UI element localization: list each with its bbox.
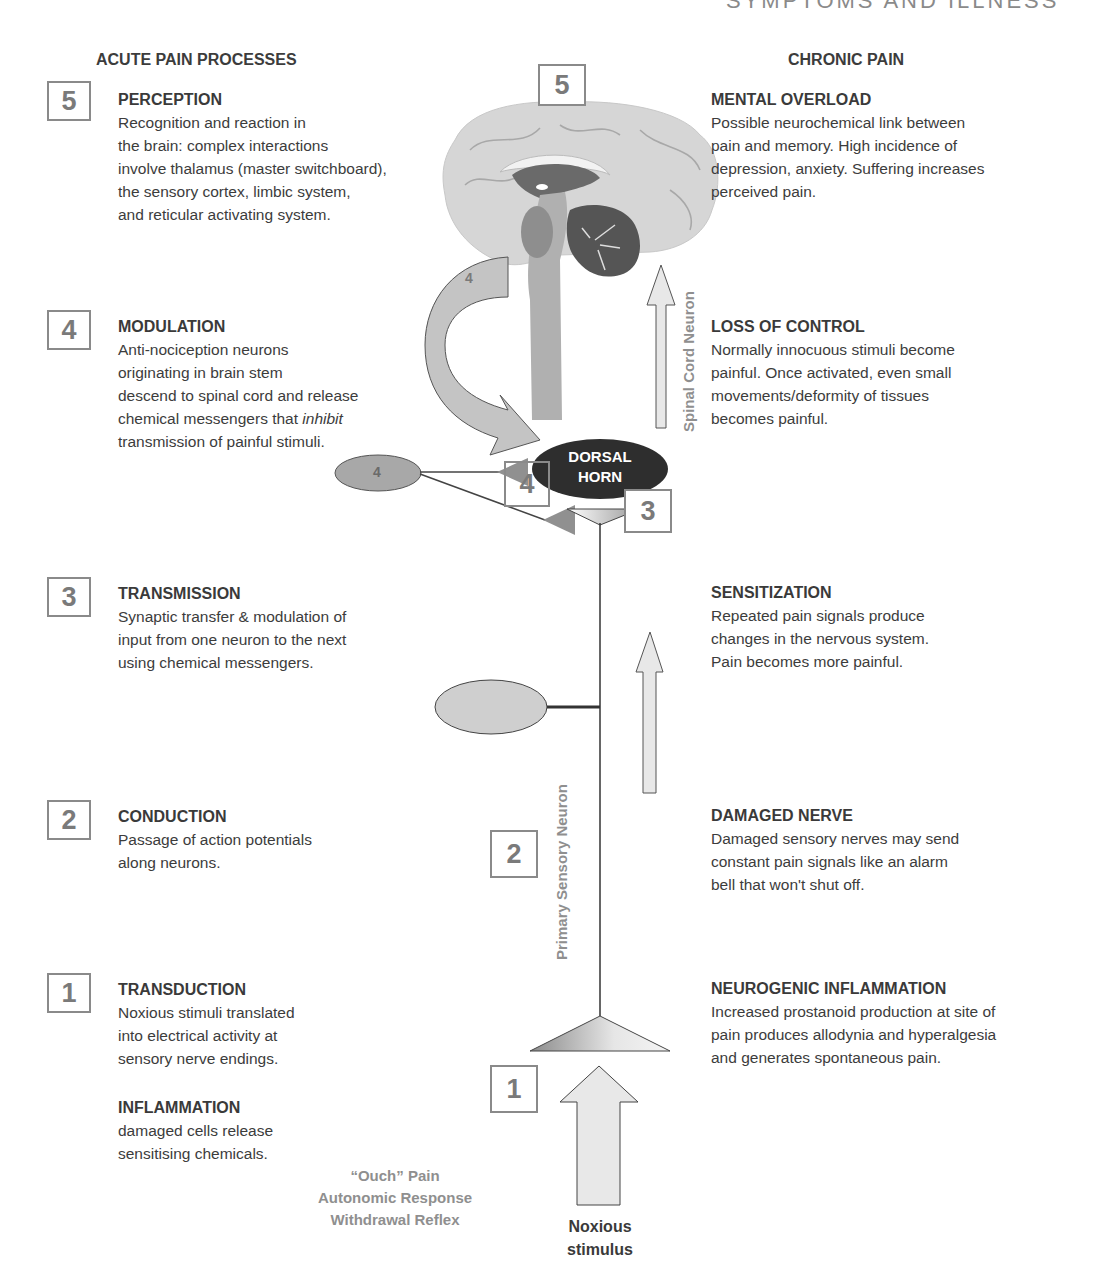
acute-responses: “Ouch” Pain Autonomic Response Withdrawa… — [290, 1165, 500, 1231]
modulation-text: Anti-nociception neurons originating in … — [118, 338, 358, 453]
modulation-text-emphasis: inhibit — [302, 410, 343, 427]
sensitization-up-arrow — [636, 632, 663, 793]
step-box-1: 1 — [47, 973, 91, 1013]
perception-heading: PERCEPTION — [118, 88, 387, 111]
sensitization-text: Repeated pain signals produce changes in… — [711, 604, 929, 673]
modulation-heading: MODULATION — [118, 315, 358, 338]
chronic-mental-overload: MENTAL OVERLOAD Possible neurochemical l… — [711, 88, 984, 203]
interneuron-label: 4 — [373, 464, 381, 480]
chronic-loss-of-control: LOSS OF CONTROL Normally innocuous stimu… — [711, 315, 955, 430]
transduction-step-box: 1 — [490, 1065, 538, 1113]
noxious-stimulus-arrow — [560, 1066, 638, 1205]
modulation-arrow-label: 4 — [465, 270, 473, 286]
acute-transmission: TRANSMISSION Synaptic transfer & modulat… — [118, 582, 346, 674]
nerve-ending — [530, 1016, 670, 1051]
spinal-cord-up-arrow — [647, 265, 675, 428]
response-withdrawal: Withdrawal Reflex — [290, 1209, 500, 1231]
noxious-stimulus-label: Noxious stimulus — [540, 1215, 660, 1261]
sensitization-heading: SENSITIZATION — [711, 581, 929, 604]
mental-overload-heading: MENTAL OVERLOAD — [711, 88, 984, 111]
modulation-text-b: transmission of painful stimuli. — [118, 433, 325, 450]
neurogenic-inflammation-heading: NEUROGENIC INFLAMMATION — [711, 977, 996, 1000]
step-box-3: 3 — [47, 577, 91, 617]
damaged-nerve-text: Damaged sensory nerves may send constant… — [711, 827, 959, 896]
response-autonomic: Autonomic Response — [290, 1187, 500, 1209]
synapse-step-box-4: 4 — [504, 461, 550, 507]
step-box-2: 2 — [47, 800, 91, 840]
step-box-4: 4 — [47, 310, 91, 350]
dorsal-horn-label: DORSAL HORN — [552, 447, 648, 487]
mental-overload-text: Possible neurochemical link between pain… — [711, 111, 984, 203]
inflammation-heading: INFLAMMATION — [118, 1096, 273, 1119]
transduction-text: Noxious stimuli translated into electric… — [118, 1001, 295, 1070]
transmission-heading: TRANSMISSION — [118, 582, 346, 605]
loss-of-control-heading: LOSS OF CONTROL — [711, 315, 955, 338]
inflammation-text: damaged cells release sensitising chemic… — [118, 1119, 273, 1165]
chronic-sensitization: SENSITIZATION Repeated pain signals prod… — [711, 581, 929, 673]
transmission-text: Synaptic transfer & modulation of input … — [118, 605, 346, 674]
dorsal-root-ganglion — [435, 680, 547, 734]
damaged-nerve-heading: DAMAGED NERVE — [711, 804, 959, 827]
response-ouch: “Ouch” Pain — [290, 1165, 500, 1187]
acute-transduction: TRANSDUCTION Noxious stimuli translated … — [118, 978, 295, 1070]
perception-text: Recognition and reaction in the brain: c… — [118, 111, 387, 226]
conduction-step-box: 2 — [490, 830, 538, 878]
descending-modulation-arrow — [425, 257, 540, 455]
conduction-heading: CONDUCTION — [118, 805, 312, 828]
loss-of-control-text: Normally innocuous stimuli become painfu… — [711, 338, 955, 430]
acute-perception: PERCEPTION Recognition and reaction in t… — [118, 88, 387, 226]
neurogenic-inflammation-text: Increased prostanoid production at site … — [711, 1000, 996, 1069]
primary-sensory-neuron-label: Primary Sensory Neuron — [553, 784, 570, 960]
chronic-damaged-nerve: DAMAGED NERVE Damaged sensory nerves may… — [711, 804, 959, 896]
synapse-step-box-3: 3 — [624, 489, 672, 533]
acute-conduction: CONDUCTION Passage of action potentials … — [118, 805, 312, 874]
acute-modulation: MODULATION Anti-nociception neurons orig… — [118, 315, 358, 453]
brain-step-box: 5 — [538, 64, 586, 106]
chronic-neurogenic-inflammation: NEUROGENIC INFLAMMATION Increased prosta… — [711, 977, 996, 1069]
step-box-5: 5 — [47, 81, 91, 121]
acute-inflammation: INFLAMMATION damaged cells release sensi… — [118, 1096, 273, 1165]
spinal-cord-neuron-label: Spinal Cord Neuron — [680, 291, 697, 432]
transduction-heading: TRANSDUCTION — [118, 978, 295, 1001]
conduction-text: Passage of action potentials along neuro… — [118, 828, 312, 874]
